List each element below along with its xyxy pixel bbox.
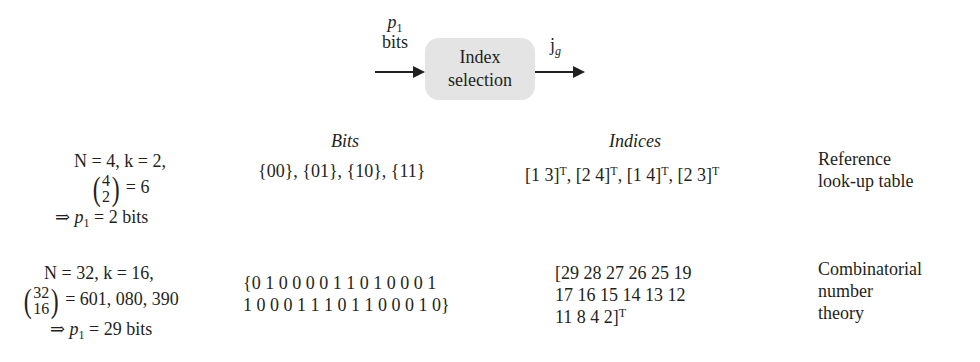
block-line-2: selection (448, 69, 512, 92)
row2-binom-bottom: 16 (33, 301, 49, 317)
row2-indices-line3: 11 8 4 2]T (555, 306, 692, 328)
row2-binomial: ( 3216 ) (22, 284, 61, 318)
block-line-1: Index (460, 46, 501, 69)
output-arrow-head-icon (573, 66, 585, 78)
output-sub: g (555, 44, 561, 58)
output-label: jg (550, 34, 561, 56)
index-selection-block: Index selection (425, 38, 535, 100)
row1-method: Reference look-up table (818, 148, 913, 192)
output-arrow-line (535, 71, 575, 73)
row2-method: Combinatorial number theory (818, 258, 922, 324)
row2-indices-line1: [29 28 27 26 25 19 (555, 262, 692, 284)
row2-bits-line2: 1 0 0 0 1 1 1 0 1 1 0 0 0 1 0} (243, 294, 450, 316)
row1-params-line1: N = 4, k = 2, (40, 150, 200, 172)
row1-binom-bottom: 2 (102, 189, 110, 205)
row1-binom-value: = 6 (126, 177, 150, 197)
row1-indices: [1 3]T, [2 4]T, [1 4]T, [2 3]T (525, 164, 719, 186)
input-arrow-line (375, 71, 415, 73)
input-unit: bits (375, 32, 415, 52)
row2-binom-top: 32 (33, 285, 49, 301)
row2-indices-line2: 17 16 15 14 13 12 (555, 284, 692, 306)
input-label: p1 bits (375, 12, 415, 52)
header-indices: Indices (580, 130, 690, 152)
row1-params: N = 4, k = 2, ( 42 ) = 6 ⇒ p1 = 2 bits (40, 150, 200, 228)
row2-binom-line: ( 3216 ) = 601, 080, 390 (22, 284, 222, 318)
row1-binomial: ( 42 ) (91, 172, 122, 206)
row2-indices: [29 28 27 26 25 19 17 16 15 14 13 12 11 … (555, 262, 692, 328)
header-bits: Bits (300, 130, 390, 152)
row1-bits: {00}, {01}, {10}, {11} (258, 160, 425, 182)
input-var: p (388, 12, 397, 32)
row1-binom-line: ( 42 ) = 6 (40, 172, 200, 206)
row2-result: ⇒ p1 = 29 bits (22, 318, 222, 340)
row2-bits-line1: {0 1 0 0 0 0 1 1 0 1 0 0 0 1 (243, 272, 450, 294)
row1-binom-top: 4 (102, 173, 110, 189)
input-arrow-head-icon (413, 66, 425, 78)
row2-params-line1: N = 32, k = 16, (22, 262, 222, 284)
row2-params: N = 32, k = 16, ( 3216 ) = 601, 080, 390… (22, 262, 222, 340)
row2-binom-value: = 601, 080, 390 (65, 289, 179, 309)
row2-bits: {0 1 0 0 0 0 1 1 0 1 0 0 0 1 1 0 0 0 1 1… (243, 272, 450, 316)
row1-result: ⇒ p1 = 2 bits (40, 206, 200, 228)
